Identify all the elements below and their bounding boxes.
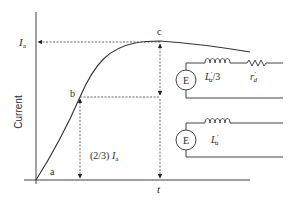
ia-axis-label: Ia <box>18 36 27 50</box>
inductor-lower-icon <box>205 119 230 124</box>
inductor-lower-label: L′a <box>210 133 219 147</box>
resistor-upper-icon <box>247 60 266 66</box>
point-b-label: b <box>70 88 75 99</box>
two-thirds-ia-label: (2/3) Ia <box>90 150 119 163</box>
point-c-label: c <box>157 26 162 37</box>
source-label-lower: E <box>183 135 189 146</box>
y-axis-label: Current <box>13 95 24 129</box>
inductor-upper-icon <box>205 59 230 64</box>
current-growth-diagram: Current Ia a b c (2/3) Ia t E L′a/3 <box>0 0 297 200</box>
inductor-upper-label: L′a/3 <box>204 70 220 84</box>
upper-circuit: E L′a/3 r′d <box>176 59 283 99</box>
source-label-upper: E <box>183 75 189 86</box>
point-a-label: a <box>50 166 55 177</box>
x-axis-label-t: t <box>157 183 161 195</box>
lower-circuit: E L′a <box>176 119 283 158</box>
resistor-upper-label: r′d <box>250 70 257 84</box>
current-curve <box>36 41 250 180</box>
